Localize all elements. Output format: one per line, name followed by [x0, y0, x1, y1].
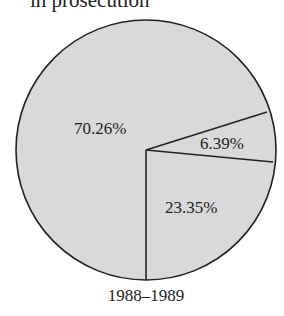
pie-chart: 70.26% 6.39% 23.35% [0, 0, 284, 316]
slice-label: 6.39% [200, 134, 244, 153]
slice-label: 23.35% [165, 198, 217, 217]
x-axis-label: 1988–1989 [0, 286, 284, 306]
slice-label: 70.26% [74, 119, 126, 138]
